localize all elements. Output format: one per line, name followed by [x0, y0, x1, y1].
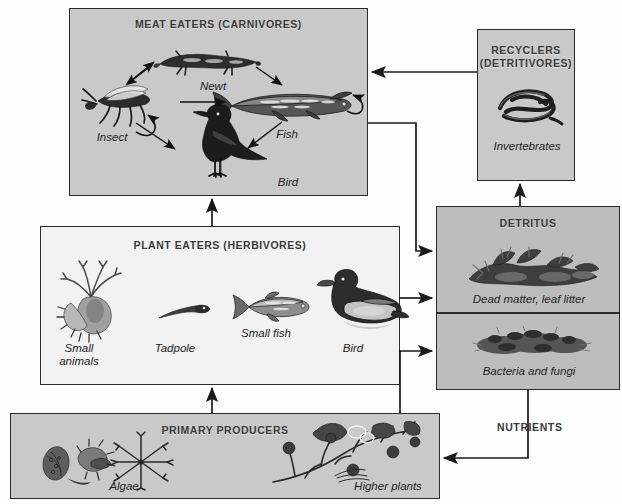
caption-bacteria-fungi: Bacteria and fungi	[437, 365, 621, 377]
box-plant-eaters-title: PLANT EATERS (HERBIVORES)	[41, 239, 399, 251]
leaf-litter-illustration	[459, 243, 603, 289]
caption-bird-herbivore: Bird	[331, 342, 375, 354]
tadpole-illustration	[157, 299, 213, 321]
worms-illustration	[492, 82, 564, 130]
food-web-diagram: MEAT EATERS (CARNIVORES) Newt	[0, 0, 622, 504]
caption-small-animals: Small animals	[51, 342, 107, 368]
box-detritus-title: DETRITUS	[437, 217, 619, 229]
caption-higher-plants: Higher plants	[343, 480, 433, 492]
small-fish-illustration	[231, 289, 313, 325]
arrow-primary-producers-to-detritus	[400, 351, 432, 413]
nutrients-label: NUTRIENTS	[497, 421, 562, 433]
box-plant-eaters: PLANT EATERS (HERBIVORES) Small animals	[40, 226, 400, 385]
box-recyclers-title-line2: (DETRITIVORES)	[478, 57, 574, 70]
bacteria-fungi-illustration	[463, 325, 599, 359]
detritus-divider	[437, 312, 619, 314]
box-detritus: DETRITUS Dead matter, leaf litter	[436, 206, 620, 390]
caption-small-fish: Small fish	[231, 327, 301, 339]
bird-herbivore-illustration	[313, 267, 409, 341]
caption-dead-matter: Dead matter, leaf litter	[437, 293, 621, 305]
small-animals-illustration	[53, 259, 139, 345]
caption-algae: Algae	[99, 480, 149, 492]
caption-invertebrates: Invertebrates	[478, 140, 576, 152]
box-recyclers-title-line1: RECYCLERS	[478, 44, 574, 57]
box-primary-producers: PRIMARY PRODUCERS	[10, 413, 440, 499]
box-meat-eaters: MEAT EATERS (CARNIVORES) Newt	[69, 8, 368, 196]
meat-eaters-internal-arrows	[70, 9, 369, 197]
box-recyclers: RECYCLERS (DETRITIVORES) Invertebrates	[477, 29, 575, 181]
caption-tadpole: Tadpole	[145, 342, 205, 354]
